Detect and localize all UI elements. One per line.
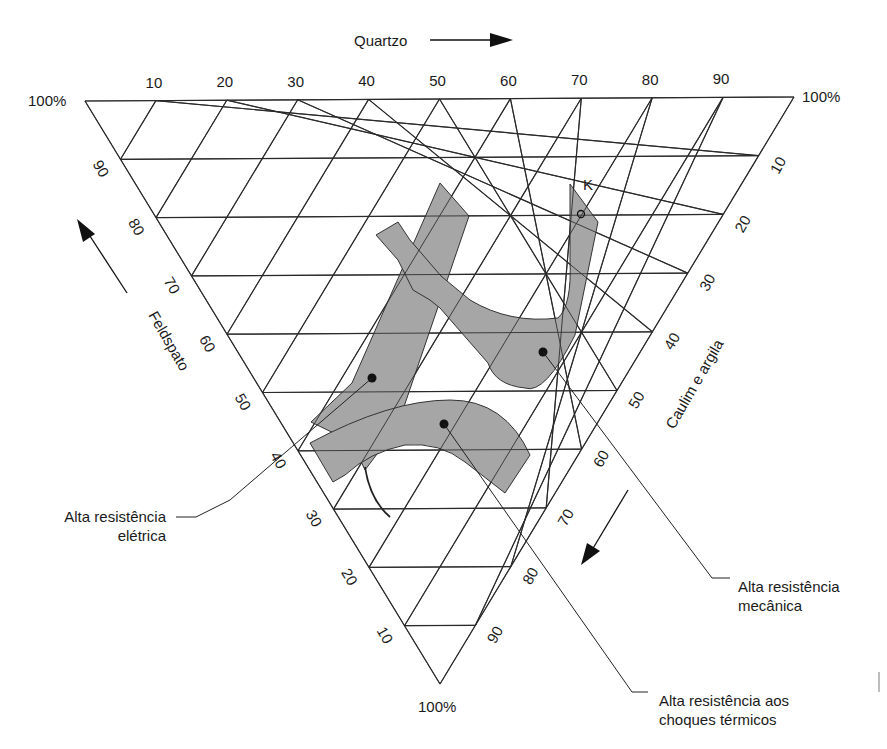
tick-label: 10 <box>146 74 163 91</box>
tick-label: 90 <box>713 70 730 87</box>
point-k-label: K <box>583 176 593 193</box>
tick-label: 50 <box>429 72 446 89</box>
tick-label: 10 <box>766 153 789 176</box>
tick-label: 70 <box>554 506 577 529</box>
tick-label: 40 <box>660 330 683 353</box>
label-mecanica: Alta resistência mecânica <box>738 577 840 615</box>
vertex-label-top-right: 100% <box>802 88 840 105</box>
arrow-caulim-icon <box>581 490 628 565</box>
tick-label: 90 <box>483 623 506 646</box>
label-termica-line1: Alta resistência aos <box>659 691 789 710</box>
label-eletrica: Alta resistência elétrica <box>20 507 166 545</box>
tick-label: 20 <box>731 212 754 235</box>
label-mecanica-line2: mecânica <box>738 596 840 615</box>
tick-label: 70 <box>571 71 588 88</box>
tick-label: 70 <box>161 274 184 297</box>
tick-label: 80 <box>125 215 148 238</box>
tick-label: 30 <box>696 271 719 294</box>
tick-label: 90 <box>90 157 113 180</box>
tick-label: 50 <box>625 388 648 411</box>
vertex-label-top-left: 100% <box>28 92 66 109</box>
tick-label: 30 <box>287 73 304 90</box>
tick-label: 10 <box>374 623 397 646</box>
tick-label: 20 <box>216 73 233 90</box>
label-termica-line2: choques térmicos <box>659 710 789 729</box>
label-eletrica-line2: elétrica <box>20 526 166 545</box>
tick-label: 80 <box>642 71 659 88</box>
ternary-svg: K Quartzo Feldspato Caulim e argila 100%… <box>0 0 887 749</box>
tick-label: 60 <box>196 332 219 355</box>
label-termica: Alta resistência aos choques térmicos <box>659 691 789 729</box>
tick-label: 30 <box>303 507 326 530</box>
ticks-caulim: 102030405060708090 <box>483 153 789 646</box>
tick-label: 60 <box>589 447 612 470</box>
label-mecanica-line1: Alta resistência <box>738 577 840 596</box>
tick-label: 20 <box>338 565 361 588</box>
axis-title-quartzo: Quartzo <box>354 32 407 49</box>
arrow-quartzo-icon <box>430 33 513 47</box>
vertex-label-bottom: 100% <box>418 698 456 715</box>
axis-title-feldspato: Feldspato <box>145 308 193 374</box>
ternary-diagram: K Quartzo Feldspato Caulim e argila 100%… <box>0 0 887 749</box>
tick-label: 80 <box>519 564 542 587</box>
tick-label: 40 <box>267 449 290 472</box>
scan-artifact <box>878 672 880 692</box>
ticks-quartzo: 102030405060708090 <box>146 70 730 90</box>
tick-label: 60 <box>500 72 517 89</box>
arrow-feldspato-icon <box>77 219 127 293</box>
tick-label: 50 <box>232 390 255 413</box>
label-eletrica-line1: Alta resistência <box>20 507 166 526</box>
tick-label: 40 <box>358 72 375 89</box>
